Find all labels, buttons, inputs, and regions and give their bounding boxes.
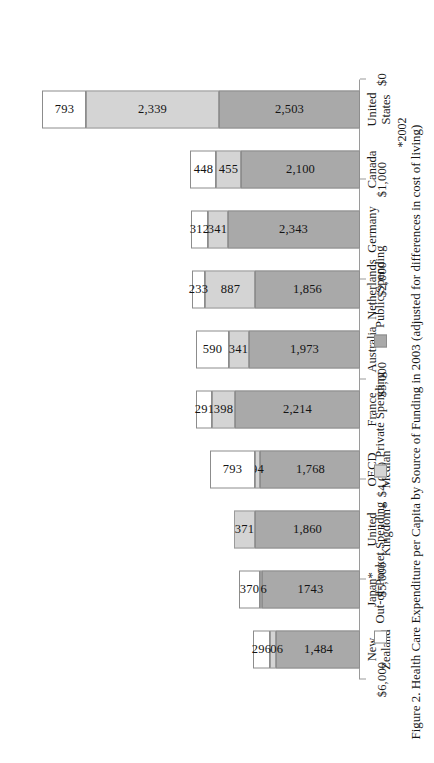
chart-canvas: $0$1,000$2,000$3,000$4,000$5,000$6,0002,…	[0, 0, 434, 763]
bar-segment: 1,768	[260, 450, 360, 488]
bar-segment: 370	[239, 570, 260, 608]
bar-value-label: 1743	[298, 582, 324, 597]
bar-segment: 1,856	[255, 270, 360, 308]
bar-segment: 455	[216, 150, 242, 188]
bar-segment: 1,973	[249, 330, 360, 368]
legend-label: Private Spending	[373, 371, 388, 457]
bar-segment: 94	[255, 450, 260, 488]
bar-value-label: 2,503	[275, 102, 304, 117]
bar-segment: 2,214	[235, 390, 360, 428]
bar-value-label: 312	[190, 222, 209, 237]
bar-value-label: 793	[54, 102, 73, 117]
bar-value-label: 370	[240, 582, 259, 597]
bar-segment: 341	[208, 210, 227, 248]
bar-value-label: 1,973	[290, 342, 319, 357]
bar-segment: 1,484	[276, 630, 360, 668]
bar-value-label: 1,860	[293, 522, 322, 537]
bar-value-label: 1,768	[295, 462, 324, 477]
bar-value-label: 2,343	[279, 222, 308, 237]
bar-segment: 793	[42, 90, 87, 128]
bar-value-label: 1,856	[293, 282, 322, 297]
bar-segment: 398	[212, 390, 234, 428]
bar-segment: 1,860	[255, 510, 360, 548]
bar-segment: 2,503	[219, 90, 360, 128]
bar-segment: 2,100	[241, 150, 360, 188]
bar-value-label: 2,214	[283, 402, 312, 417]
bar-value-label: 1,484	[304, 642, 333, 657]
bar-segment: 296	[253, 630, 270, 668]
bar-segment: 371	[234, 510, 255, 548]
legend-item-private: Private Spending	[373, 371, 388, 477]
legend-item-oop: Out-of-Pocket Spending	[373, 501, 388, 643]
legend-label: Public Spending	[373, 245, 388, 327]
bar-value-label: 455	[219, 162, 238, 177]
bar-segment: 312	[191, 210, 209, 248]
legend-swatch-oop	[374, 630, 387, 643]
legend-swatch-private	[374, 464, 387, 477]
bar-segment: 1743	[262, 570, 360, 608]
bar-value-label: 398	[214, 402, 233, 417]
bar-value-label: 2,339	[138, 102, 167, 117]
bar-segment: 448	[190, 150, 215, 188]
bar-value-label: 793	[223, 462, 242, 477]
bar-segment: 2,339	[86, 90, 218, 128]
bar-value-label: 590	[203, 342, 222, 357]
bar-value-label: 341	[208, 222, 227, 237]
bar-value-label: 371	[235, 522, 254, 537]
bar-value-label: 448	[193, 162, 212, 177]
legend-item-public: Public Spending	[373, 245, 388, 347]
figure-caption: Figure 2. Health Care Expenditure per Ca…	[408, 19, 424, 739]
bar-segment: 2,343	[228, 210, 360, 248]
bar-segment: 590	[196, 330, 229, 368]
chart-legend: Out-of-Pocket SpendingPrivate SpendingPu…	[373, 245, 388, 643]
bar-value-label: 2,100	[286, 162, 315, 177]
bar-segment: 233	[192, 270, 205, 308]
bar-segment: 291	[196, 390, 212, 428]
bar-segment: 341	[229, 330, 248, 368]
legend-label: Out-of-Pocket Spending	[373, 501, 388, 623]
legend-swatch-public	[374, 334, 387, 347]
bar-value-label: 341	[229, 342, 248, 357]
bar-value-label: 233	[189, 282, 208, 297]
bar-segment: 793	[210, 450, 255, 488]
bar-value-label: 296	[252, 642, 271, 657]
bar-value-label: 291	[195, 402, 214, 417]
bar-value-label: 887	[220, 282, 239, 297]
bar-segment: 887	[205, 270, 255, 308]
plot-area: $0$1,000$2,000$3,000$4,000$5,000$6,0002,…	[21, 79, 360, 679]
